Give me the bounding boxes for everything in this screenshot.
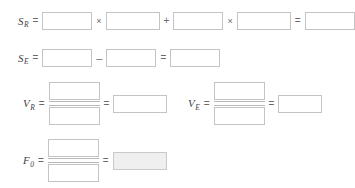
variable-label-s-r: SR	[18, 16, 29, 27]
equals-operator: =	[35, 99, 49, 109]
variable-label-v-e: VE	[188, 98, 200, 109]
fraction-v-e	[214, 82, 265, 125]
minus-operator: –	[92, 53, 106, 64]
equals-operator: =	[99, 156, 113, 166]
input-s-r-term1-factor2[interactable]	[106, 12, 160, 30]
input-s-r-result[interactable]	[305, 12, 355, 30]
input-f-0-result[interactable]	[113, 152, 167, 170]
equals-operator: =	[265, 99, 279, 109]
equals-operator: =	[291, 16, 305, 26]
input-f-0-numerator[interactable]	[48, 139, 99, 157]
formula-row-v-r: VR = =	[23, 82, 167, 125]
variable-label-v-r: VR	[23, 98, 35, 109]
times-operator: ×	[223, 17, 236, 26]
input-v-e-denominator[interactable]	[214, 107, 265, 125]
input-v-e-result[interactable]	[278, 95, 322, 113]
input-s-e-result[interactable]	[170, 49, 220, 67]
equals-operator: =	[100, 99, 114, 109]
equals-operator: =	[29, 16, 43, 26]
input-s-r-term1-factor1[interactable]	[42, 12, 92, 30]
input-s-e-subtrahend[interactable]	[106, 49, 156, 67]
fraction-bar	[48, 158, 99, 163]
equals-operator: =	[34, 156, 48, 166]
input-v-r-denominator[interactable]	[49, 107, 100, 125]
plus-operator: +	[160, 16, 174, 26]
fraction-bar	[214, 101, 265, 106]
variable-label-s-e: SE	[18, 53, 29, 64]
input-s-r-term2-factor1[interactable]	[173, 12, 223, 30]
input-v-r-numerator[interactable]	[49, 82, 100, 100]
times-operator: ×	[92, 17, 105, 26]
input-f-0-denominator[interactable]	[48, 164, 99, 182]
input-v-r-result[interactable]	[113, 95, 167, 113]
input-s-r-term2-factor2[interactable]	[237, 12, 291, 30]
equals-operator: =	[156, 53, 170, 63]
input-s-e-minuend[interactable]	[42, 49, 92, 67]
formula-row-s-e: SE = – =	[18, 49, 220, 67]
equals-operator: =	[200, 99, 214, 109]
equals-operator: =	[29, 53, 43, 63]
input-v-e-numerator[interactable]	[214, 82, 265, 100]
variable-label-f-0: F0	[23, 155, 34, 166]
fraction-v-r	[49, 82, 100, 125]
formula-row-s-r: SR = × + × =	[18, 12, 355, 30]
fraction-bar	[49, 101, 100, 106]
formula-row-v-e: VE = =	[188, 82, 322, 125]
formula-row-f-0: F0 = =	[23, 139, 167, 182]
fraction-f-0	[48, 139, 99, 182]
